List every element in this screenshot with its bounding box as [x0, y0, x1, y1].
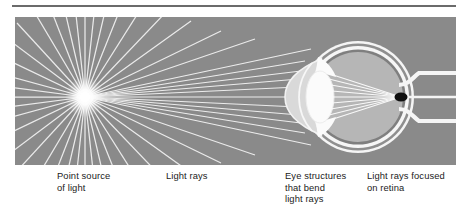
diagram-panel: [15, 17, 456, 165]
caption-light-rays: Light rays: [166, 170, 208, 182]
retina-focal-point: [395, 93, 408, 102]
point-source-core: [80, 92, 90, 102]
eye-optics-figure: Point source of light Light rays Eye str…: [0, 0, 469, 222]
caption-eye-structures: Eye structures that bend light rays: [285, 170, 346, 205]
caption-point-source: Point source of light: [57, 170, 110, 193]
caption-focused-on-retina: Light rays focused on retina: [367, 170, 445, 193]
figure-top-rule: [12, 5, 456, 7]
